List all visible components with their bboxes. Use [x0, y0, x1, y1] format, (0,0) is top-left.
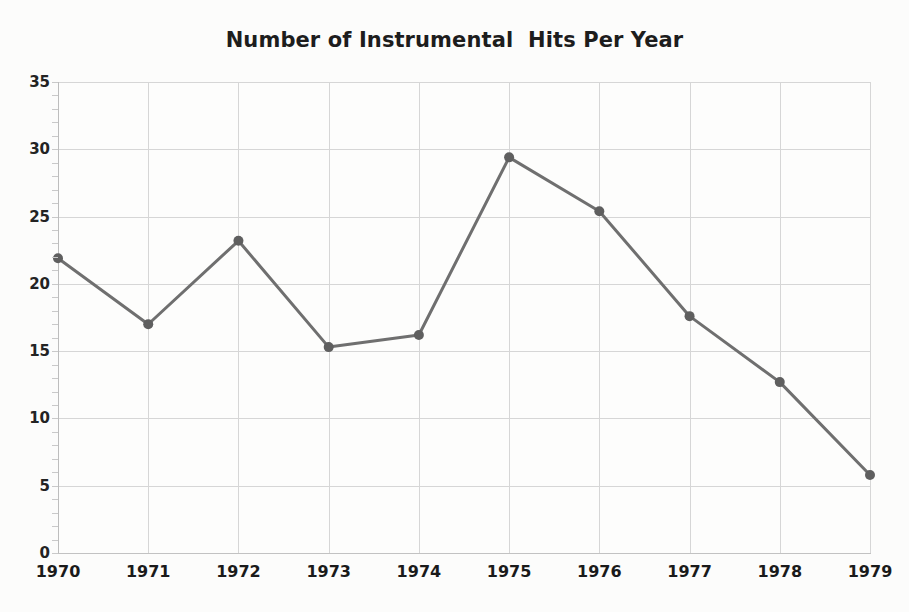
x-axis-tick-label: 1972 — [203, 562, 273, 581]
y-axis-tick-mark — [52, 526, 58, 527]
y-axis-tick-mark — [52, 499, 58, 500]
y-axis-tick-mark — [52, 217, 58, 218]
y-axis-tick-mark — [52, 190, 58, 191]
y-axis-tick-mark — [52, 338, 58, 339]
y-axis-tick-mark — [52, 445, 58, 446]
x-axis-tick-label: 1979 — [835, 562, 905, 581]
x-axis-tick-label: 1977 — [655, 562, 725, 581]
x-axis-tick-label: 1978 — [745, 562, 815, 581]
y-axis-tick-mark — [52, 270, 58, 271]
y-axis-tick-mark — [52, 109, 58, 110]
y-axis-tick-mark — [52, 203, 58, 204]
x-axis-tick-label: 1974 — [384, 562, 454, 581]
y-axis-tick-mark — [52, 365, 58, 366]
y-axis-tick-mark — [52, 486, 58, 487]
y-axis-tick-mark — [52, 230, 58, 231]
x-axis-tick-label: 1970 — [23, 562, 93, 581]
y-axis-tick-mark — [52, 540, 58, 541]
y-axis-tick-mark — [52, 405, 58, 406]
y-axis-tick-mark — [52, 311, 58, 312]
y-axis-tick-mark — [52, 243, 58, 244]
line-chart-figure: Number of Instrumental Hits Per Year 051… — [0, 0, 909, 612]
x-axis-tick-label: 1973 — [294, 562, 364, 581]
y-axis-tick-mark — [52, 351, 58, 352]
y-axis-tick-mark — [52, 284, 58, 285]
x-axis-tick-label: 1976 — [564, 562, 634, 581]
y-axis-tick-mark — [52, 82, 58, 83]
y-axis-tick-mark — [52, 418, 58, 419]
y-axis-tick-mark — [52, 149, 58, 150]
y-axis-tick-mark — [52, 297, 58, 298]
x-axis-tick-label: 1975 — [474, 562, 544, 581]
y-axis-tick-mark — [52, 513, 58, 514]
y-axis-tick-mark — [52, 378, 58, 379]
x-axis-tick-label: 1971 — [113, 562, 183, 581]
y-axis-tick-mark — [52, 553, 58, 554]
y-axis-tick-mark — [52, 122, 58, 123]
x-axis-tick-labels: 1970197119721973197419751976197719781979 — [0, 0, 909, 612]
y-axis-tick-mark — [52, 95, 58, 96]
y-axis-tick-mark — [52, 163, 58, 164]
y-axis-tick-mark — [52, 136, 58, 137]
y-axis-tick-mark — [52, 432, 58, 433]
y-axis-tick-mark — [52, 324, 58, 325]
y-axis-tick-mark — [52, 459, 58, 460]
y-axis-tick-mark — [52, 257, 58, 258]
y-axis-tick-mark — [52, 392, 58, 393]
y-axis-tick-mark — [52, 472, 58, 473]
y-axis-tick-mark — [52, 176, 58, 177]
